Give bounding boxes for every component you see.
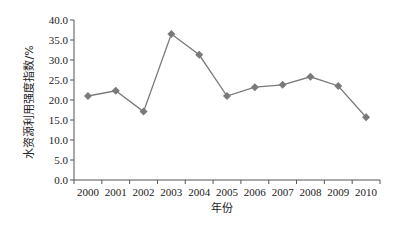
y-tick-label: 0.0	[54, 174, 68, 186]
x-tick-label: 2007	[272, 186, 295, 198]
x-tick-label: 2008	[299, 186, 322, 198]
y-tick-label: 35.0	[49, 34, 69, 46]
y-tick-label: 10.0	[49, 134, 69, 146]
y-tick-label: 30.0	[49, 54, 69, 66]
diamond-marker	[251, 83, 259, 91]
diamond-marker	[306, 73, 314, 81]
y-axis-ticks: 0.05.010.015.020.025.030.035.040.0	[49, 14, 74, 186]
y-tick-label: 25.0	[49, 74, 69, 86]
x-tick-label: 2000	[77, 186, 100, 198]
y-tick-label: 15.0	[49, 114, 69, 126]
y-axis-label: 水资源利用强度指数/%	[22, 45, 36, 158]
data-markers	[84, 30, 370, 121]
y-tick-label: 40.0	[49, 14, 69, 26]
x-tick-label: 2003	[160, 186, 183, 198]
line-chart: 0.05.010.015.020.025.030.035.040.0 20002…	[0, 0, 400, 231]
x-tick-label: 2009	[327, 186, 350, 198]
x-tick-label: 2004	[188, 186, 211, 198]
data-line	[88, 34, 366, 117]
diamond-marker	[279, 81, 287, 89]
x-tick-label: 2005	[216, 186, 239, 198]
x-axis-label: 年份	[211, 201, 233, 215]
diamond-marker	[84, 92, 92, 100]
x-tick-label: 2002	[133, 186, 155, 198]
x-tick-label: 2001	[105, 186, 127, 198]
diamond-marker	[223, 92, 231, 100]
y-tick-label: 20.0	[49, 94, 69, 106]
y-tick-label: 5.0	[54, 154, 68, 166]
x-tick-label: 2010	[355, 186, 378, 198]
x-axis-ticks: 2000200120022003200420052006200720082009…	[74, 180, 380, 198]
x-tick-label: 2006	[244, 186, 267, 198]
